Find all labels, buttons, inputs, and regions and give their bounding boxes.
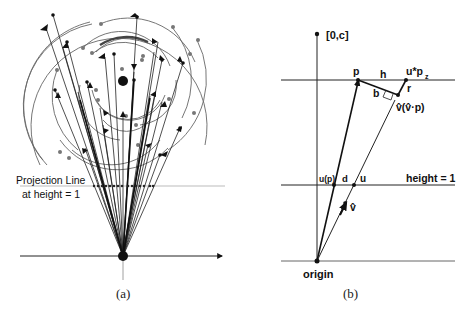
label-vhat: v̂ bbox=[350, 201, 356, 213]
origin-point-b bbox=[315, 259, 320, 264]
label-origin: origin bbox=[303, 268, 334, 280]
center-point bbox=[118, 76, 128, 86]
projection-label-line2: at height = 1 bbox=[22, 188, 80, 200]
vhat-arrow bbox=[340, 205, 345, 215]
panel-a: Projection Line at height = 1 (a) bbox=[16, 13, 225, 301]
projection-label-line1: Projection Line bbox=[16, 174, 86, 186]
segment-r bbox=[398, 80, 406, 95]
top-point bbox=[315, 32, 319, 36]
point-u bbox=[352, 183, 356, 187]
label-vhat-vhat-p: v̂(v̂·p) bbox=[396, 101, 425, 113]
panel-b: [0,c] p h u*p z r b v̂(v̂·p) bbox=[281, 29, 455, 301]
vhat-point bbox=[343, 201, 347, 205]
caption-b: (b) bbox=[343, 286, 358, 301]
label-u-of-p: u(p) bbox=[319, 174, 335, 184]
top-point-label: [0,c] bbox=[326, 29, 349, 41]
label-u: u bbox=[360, 173, 366, 184]
trajectory-arcs bbox=[23, 18, 207, 170]
point-vhat-proj bbox=[396, 93, 400, 97]
label-u-pz: u*p bbox=[406, 65, 423, 77]
label-u-pz-sub: z bbox=[425, 73, 429, 80]
label-p: p bbox=[353, 65, 359, 77]
label-h: h bbox=[380, 68, 386, 80]
label-b: b bbox=[373, 87, 379, 99]
point-p bbox=[356, 78, 360, 82]
rays bbox=[46, 15, 183, 256]
vector-p bbox=[317, 82, 358, 261]
label-height-1: height = 1 bbox=[406, 172, 455, 184]
origin-point-a bbox=[118, 251, 128, 261]
caption-a: (a) bbox=[116, 286, 130, 301]
label-r: r bbox=[407, 82, 411, 94]
figure-canvas: Projection Line at height = 1 (a) [0,c] bbox=[0, 0, 468, 316]
label-d: d bbox=[342, 173, 348, 184]
